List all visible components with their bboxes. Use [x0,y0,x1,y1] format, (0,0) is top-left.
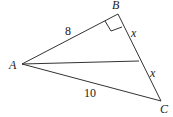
vertex-label-a: A [8,58,17,72]
edge-label-ab: 8 [65,24,71,38]
edge-label-ac: 10 [84,86,96,100]
side-ab [22,14,118,64]
vertex-label-b: B [112,0,120,12]
right-angle-marker [105,21,122,31]
median-am [22,61,139,64]
edge-label-mc: x [149,66,156,80]
vertex-label-c: C [160,102,169,116]
edge-label-bm: x [130,26,137,40]
triangle-diagram: B A C 8 x x 10 [0,0,173,117]
side-bc [118,14,161,101]
